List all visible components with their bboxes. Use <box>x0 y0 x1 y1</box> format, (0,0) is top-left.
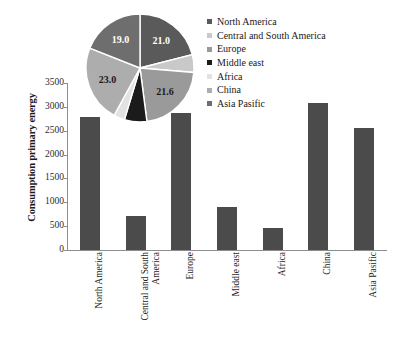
x-axis-line <box>67 250 387 251</box>
y-tick-mark <box>64 155 67 156</box>
bar-europe <box>171 113 191 250</box>
x-label-china: China <box>322 252 333 275</box>
y-tick-mark <box>64 250 67 251</box>
legend-label: Asia Pasific <box>217 99 265 109</box>
y-tick-label: 2500 <box>30 126 64 136</box>
bar-africa <box>263 228 283 250</box>
y-tick-mark <box>64 107 67 108</box>
legend-label: Africa <box>217 72 243 82</box>
x-label-middle-east: Middle east <box>231 252 242 297</box>
legend-item-china: China <box>207 83 392 97</box>
bar-china <box>308 103 328 250</box>
chart-legend: North AmericaCentral and South AmericaEu… <box>207 15 392 111</box>
bar-central-and-south-america <box>126 216 146 250</box>
legend-swatch-icon <box>207 47 212 52</box>
legend-item-europe: Europe <box>207 42 392 56</box>
y-tick-mark <box>64 83 67 84</box>
legend-label: Central and South America <box>217 31 326 41</box>
legend-label: Middle east <box>217 58 264 68</box>
x-axis-category-labels: North AmericaCentral and South AmericaEu… <box>67 252 387 345</box>
legend-label: North America <box>217 17 277 27</box>
legend-label: China <box>217 85 241 95</box>
legend-swatch-icon <box>207 60 212 65</box>
legend-label: Europe <box>217 44 246 54</box>
legend-swatch-icon <box>207 74 212 79</box>
bar-north-america <box>80 117 100 250</box>
legend-swatch-icon <box>207 33 212 38</box>
y-tick-label: 1500 <box>30 173 64 183</box>
legend-swatch-icon <box>207 19 212 24</box>
combined-energy-figure: Consumption primary energy 0500100015002… <box>0 0 402 345</box>
y-tick-mark <box>64 178 67 179</box>
pie-value-label: 23.0 <box>99 74 117 85</box>
y-tick-label: 2000 <box>30 150 64 160</box>
pie-value-label: 19.0 <box>112 34 130 45</box>
y-tick-mark <box>64 131 67 132</box>
y-tick-label: 1000 <box>30 197 64 207</box>
legend-item-africa: Africa <box>207 70 392 84</box>
legend-item-central-and-south-america: Central and South America <box>207 29 392 43</box>
x-label-asia-pasific: Asia Pasific <box>368 252 379 298</box>
y-axis-tick-labels: 0500100015002000250030003500 <box>30 0 64 345</box>
x-label-north-america: North America <box>94 252 105 309</box>
legend-swatch-icon <box>207 88 212 93</box>
legend-item-asia-pasific: Asia Pasific <box>207 97 392 111</box>
y-tick-label: 3500 <box>30 78 64 88</box>
y-tick-label: 500 <box>30 221 64 231</box>
legend-swatch-icon <box>207 101 212 106</box>
pie-value-label: 21.0 <box>152 35 170 46</box>
y-tick-label: 3000 <box>30 102 64 112</box>
y-tick-mark <box>64 202 67 203</box>
x-label-africa: Africa <box>277 252 288 276</box>
legend-item-north-america: North America <box>207 15 392 29</box>
y-tick-mark <box>64 226 67 227</box>
bar-middle-east <box>217 207 237 250</box>
y-axis-line <box>67 83 68 250</box>
x-label-central-and-south-america: Central and South America <box>140 252 161 344</box>
pie-chart: 21.05.321.66.73.323.019.0 <box>85 13 195 123</box>
legend-item-middle-east: Middle east <box>207 56 392 70</box>
x-label-europe: Europe <box>185 252 196 279</box>
pie-value-label: 21.6 <box>156 86 174 97</box>
bar-asia-pasific <box>354 128 374 250</box>
y-tick-label: 0 <box>30 245 64 255</box>
pie-chart-svg: 21.05.321.66.73.323.019.0 <box>85 13 195 123</box>
